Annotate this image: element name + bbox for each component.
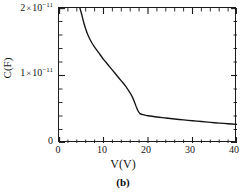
x-tick-label-20: 20 xyxy=(132,145,160,155)
x-tick-label-40: 40 xyxy=(220,145,246,155)
x-tick-label-10: 10 xyxy=(88,145,116,155)
y-tick-mid-exponent: −11 xyxy=(42,66,53,74)
x-tick-label-30: 30 xyxy=(176,145,204,155)
x-tick-label-0: 0 xyxy=(44,145,72,155)
y-tick-top-exponent: −11 xyxy=(42,1,53,9)
y-tick-top-base: 10 xyxy=(32,2,42,13)
data-curve-svg xyxy=(59,8,237,143)
plot-area xyxy=(58,7,236,142)
figure-panel-b: C(F) 2×10−11 1×10−11 0 0 10 20 30 40 V(V… xyxy=(0,0,246,192)
y-tick-mid-base: 10 xyxy=(32,67,42,78)
y-tick-label-top: 2×10−11 xyxy=(0,2,53,13)
panel-caption: (b) xyxy=(0,176,246,188)
y-tick-label-mid: 1×10−11 xyxy=(0,67,53,78)
x-axis-title: V(V) xyxy=(0,157,246,172)
data-series-line xyxy=(79,8,237,124)
